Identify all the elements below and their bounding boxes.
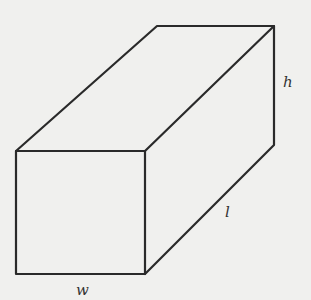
width-label: w [76, 281, 89, 299]
top-face [16, 26, 274, 151]
rectangular-prism-diagram: h l w [0, 0, 311, 300]
height-label: h [283, 73, 293, 91]
front-face [16, 151, 145, 274]
length-label: l [225, 203, 230, 221]
right-face-edges [145, 26, 274, 274]
